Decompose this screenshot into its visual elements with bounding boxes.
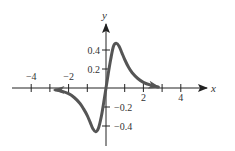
y-tick-label: −0.2 — [114, 102, 132, 113]
axes: −4−224 −0.4−0.20.20.4 x y — [12, 9, 216, 146]
y-tick-label: 0.2 — [88, 64, 101, 75]
x-axis-label: x — [210, 82, 216, 94]
x-tick-label: −4 — [26, 71, 37, 82]
y-tick-label: −0.4 — [114, 121, 132, 132]
function-graph: −4−224 −0.4−0.20.20.4 x y — [0, 0, 235, 151]
x-tick-label: 2 — [141, 92, 146, 103]
y-axis-label: y — [101, 9, 107, 21]
x-tick-label: 4 — [178, 92, 183, 103]
y-tick-label: 0.4 — [88, 45, 101, 56]
x-tick-label: −2 — [63, 71, 74, 82]
